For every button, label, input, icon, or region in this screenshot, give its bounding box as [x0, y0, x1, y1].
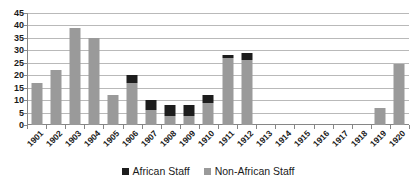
bar-group [103, 13, 122, 125]
x-tick-label: 1918 [348, 129, 370, 151]
bar-segment-non-african-staff [88, 38, 99, 125]
x-tick-label: 1914 [271, 129, 293, 151]
x-tick-label: 1902 [42, 129, 64, 151]
bar-segment-non-african-staff [203, 103, 214, 125]
bar-group [218, 13, 237, 125]
bar-stack [69, 28, 80, 125]
y-tick-label: 15 [0, 83, 24, 92]
bar-stack [375, 108, 386, 125]
x-tick-label: 1913 [252, 129, 274, 151]
bar-stack [50, 70, 61, 125]
bar-segment-non-african-staff [375, 108, 386, 125]
bar-group [123, 13, 142, 125]
y-tick-label: 5 [0, 108, 24, 117]
bar-stack [127, 75, 138, 125]
chart-legend: African StaffNon-African Staff [0, 166, 416, 177]
legend-swatch-icon [122, 168, 129, 175]
bar-segment-non-african-staff [127, 83, 138, 125]
x-tick-label: 1901 [23, 129, 45, 151]
bar-group [294, 13, 313, 125]
bar-group [390, 13, 409, 125]
x-tick-label: 1903 [61, 129, 83, 151]
bar-group [352, 13, 371, 125]
bar-stack [203, 95, 214, 125]
bar-segment-african-staff [146, 100, 157, 110]
x-tick-label: 1904 [80, 129, 102, 151]
bar-stack [222, 55, 233, 125]
bar-group [371, 13, 390, 125]
x-tick-label: 1906 [118, 129, 140, 151]
bar-stack [165, 105, 176, 125]
bar-stack [394, 64, 405, 125]
x-tick-mark [409, 125, 410, 129]
bar-segment-non-african-staff [31, 83, 42, 125]
y-tick-label: 0 [0, 121, 24, 130]
bar-group [142, 13, 161, 125]
bar-segment-non-african-staff [69, 28, 80, 125]
x-tick-label: 1919 [367, 129, 389, 151]
x-axis: 1901190219031904190519061907190819091910… [27, 129, 409, 161]
bar-stack [241, 53, 252, 125]
bar-group [314, 13, 333, 125]
bar-segment-african-staff [241, 53, 252, 60]
y-axis: 454035302520151050 [0, 13, 24, 125]
bar-stack [107, 95, 118, 125]
bar-group [84, 13, 103, 125]
legend-swatch-icon [204, 168, 211, 175]
bar-group [256, 13, 275, 125]
x-tick-label: 1908 [157, 129, 179, 151]
bar-segment-african-staff [165, 105, 176, 116]
bar-segment-african-staff [127, 75, 138, 82]
bar-segment-non-african-staff [107, 95, 118, 125]
bar-segment-non-african-staff [394, 64, 405, 125]
x-tick-label: 1907 [138, 129, 160, 151]
x-tick-label: 1920 [386, 129, 408, 151]
bar-stack [146, 100, 157, 125]
legend-item[interactable]: African Staff [122, 166, 190, 177]
bar-group [275, 13, 294, 125]
y-tick-label: 45 [0, 9, 24, 18]
bar-stack [184, 105, 195, 125]
x-tick-label: 1910 [195, 129, 217, 151]
x-tick-label: 1911 [214, 129, 236, 151]
bar-stack [31, 83, 42, 125]
x-tick-label: 1915 [290, 129, 312, 151]
bar-segment-african-staff [203, 95, 214, 102]
x-tick-label: 1909 [176, 129, 198, 151]
bar-group [27, 13, 46, 125]
x-tick-label: 1917 [329, 129, 351, 151]
x-tick-label: 1905 [99, 129, 121, 151]
bar-segment-non-african-staff [165, 116, 176, 125]
legend-label: African Staff [133, 166, 190, 177]
bar-group [180, 13, 199, 125]
bar-segment-non-african-staff [241, 60, 252, 125]
y-tick-label: 25 [0, 58, 24, 67]
y-tick-label: 10 [0, 96, 24, 105]
bar-segment-non-african-staff [184, 116, 195, 125]
bars-layer [27, 13, 409, 125]
bar-group [333, 13, 352, 125]
legend-item[interactable]: Non-African Staff [204, 166, 295, 177]
bar-segment-non-african-staff [50, 70, 61, 125]
legend-label: Non-African Staff [215, 166, 295, 177]
bar-stack [88, 38, 99, 125]
y-tick-label: 40 [0, 21, 24, 30]
x-tick-label: 1916 [309, 129, 331, 151]
bar-chart: 454035302520151050 190119021903190419051… [0, 0, 416, 189]
bar-group [237, 13, 256, 125]
y-tick-label: 35 [0, 33, 24, 42]
bar-segment-non-african-staff [146, 110, 157, 125]
bar-group [46, 13, 65, 125]
bar-segment-african-staff [184, 105, 195, 116]
y-tick-label: 30 [0, 46, 24, 55]
bar-group [161, 13, 180, 125]
x-tick-label: 1912 [233, 129, 255, 151]
bar-group [65, 13, 84, 125]
bar-group [199, 13, 218, 125]
y-tick-label: 20 [0, 71, 24, 80]
bar-segment-non-african-staff [222, 58, 233, 125]
